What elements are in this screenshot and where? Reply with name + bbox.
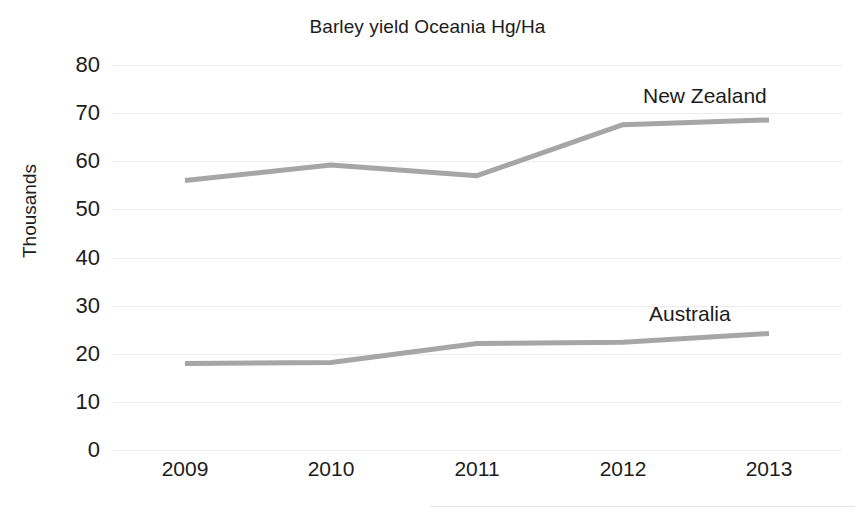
gridline: [112, 209, 842, 210]
plot-area: [112, 65, 842, 450]
series-label-australia: Australia: [649, 302, 731, 326]
y-axis-tick-label: 20: [76, 343, 100, 365]
y-axis-tick-labels: 01020304050607080: [44, 65, 100, 450]
gridline: [112, 402, 842, 403]
gridline: [112, 65, 842, 66]
y-axis-tick-label: 40: [76, 247, 100, 269]
y-axis-tick-label: 0: [88, 439, 100, 461]
x-axis-tick-label: 2012: [600, 458, 647, 479]
y-axis-tick-label: 80: [76, 54, 100, 76]
y-axis-tick-label: 60: [76, 150, 100, 172]
x-axis-tick-label: 2009: [162, 458, 209, 479]
x-axis-tick-label: 2010: [308, 458, 355, 479]
x-axis-tick-labels: 20092010201120122013: [112, 458, 842, 492]
gridline: [112, 450, 842, 451]
chart-container: Barley yield Oceania Hg/Ha Thousands 010…: [0, 0, 855, 514]
y-axis-tick-label: 10: [76, 391, 100, 413]
y-axis-tick-label: 30: [76, 295, 100, 317]
bottom-rule: [430, 506, 855, 507]
gridline: [112, 258, 842, 259]
y-axis-tick-label: 70: [76, 102, 100, 124]
x-axis-tick-label: 2011: [454, 458, 499, 479]
gridline: [112, 161, 842, 162]
chart-title: Barley yield Oceania Hg/Ha: [0, 16, 855, 38]
gridline: [112, 113, 842, 114]
y-axis-title: Thousands: [19, 131, 41, 291]
series-label-new-zealand: New Zealand: [643, 84, 767, 108]
y-axis-tick-label: 50: [76, 198, 100, 220]
x-axis-tick-label: 2013: [746, 458, 793, 479]
gridline: [112, 306, 842, 307]
gridline: [112, 354, 842, 355]
